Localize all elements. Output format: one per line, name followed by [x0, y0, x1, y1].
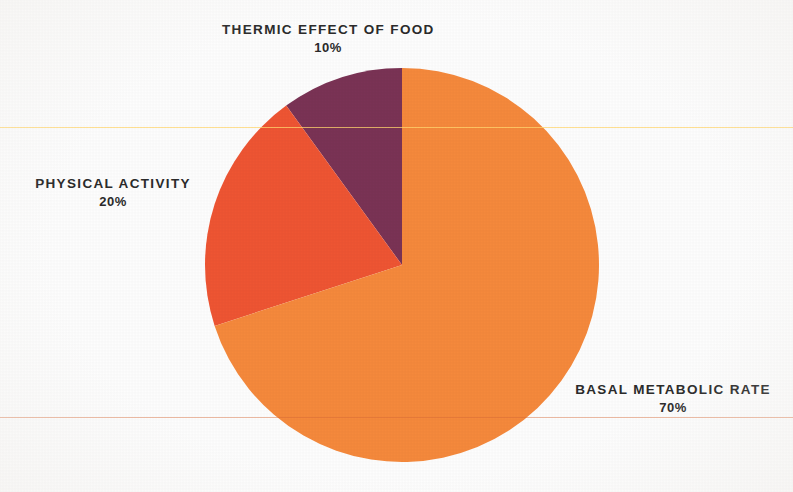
slice-label-thermic-effect-of-food: THERMIC EFFECT OF FOOD 10% — [222, 22, 434, 55]
pie-chart-graphic — [203, 66, 601, 464]
slice-label-bmr-value: 70% — [572, 400, 774, 415]
slice-label-basal-metabolic-rate: BASAL METABOLIC RATE 70% — [572, 382, 774, 415]
slice-label-bmr-title: BASAL METABOLIC RATE — [572, 382, 774, 397]
pie-slices-svg — [203, 66, 601, 464]
slice-label-thermic-title: THERMIC EFFECT OF FOOD — [222, 22, 434, 37]
slice-label-activity-title: PHYSICAL ACTIVITY — [32, 176, 194, 191]
slice-label-physical-activity: PHYSICAL ACTIVITY 20% — [32, 176, 194, 209]
pie-chart-figure: THERMIC EFFECT OF FOOD 10% PHYSICAL ACTI… — [0, 0, 793, 492]
slice-label-activity-value: 20% — [32, 194, 194, 209]
slice-label-thermic-value: 10% — [222, 40, 434, 55]
